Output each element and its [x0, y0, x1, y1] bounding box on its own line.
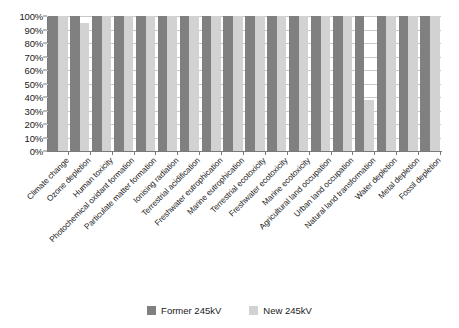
bar-group	[375, 16, 397, 151]
bar-group	[47, 16, 69, 151]
bar-group	[353, 16, 375, 151]
y-axis-tick-label: 30%	[25, 105, 43, 116]
bar	[289, 16, 299, 151]
bar-group	[244, 16, 266, 151]
bar-group	[332, 16, 354, 151]
bar-group	[310, 16, 332, 151]
bar	[299, 16, 309, 151]
bar	[211, 16, 221, 151]
bar	[48, 16, 58, 151]
bar-group	[113, 16, 135, 151]
bar-group	[156, 16, 178, 151]
y-axis-tick-label: 20%	[25, 119, 43, 130]
bar	[70, 16, 80, 151]
bar	[202, 16, 212, 151]
bar	[364, 100, 374, 151]
bar-group	[266, 16, 288, 151]
bar	[386, 16, 396, 151]
bar	[333, 16, 343, 151]
bar	[321, 16, 331, 151]
y-axis-tick-label: 50%	[25, 78, 43, 89]
bar	[233, 16, 243, 151]
y-axis-tick-label: 10%	[25, 132, 43, 143]
bar	[58, 16, 68, 151]
legend-swatch-icon	[147, 306, 156, 315]
bar	[420, 16, 430, 151]
bar-group	[419, 16, 441, 151]
bar-group	[135, 16, 157, 151]
bar	[399, 16, 409, 151]
chart-legend: Former 245kVNew 245kV	[0, 305, 459, 316]
bar	[189, 16, 199, 151]
bar	[277, 16, 287, 151]
bar	[343, 16, 353, 151]
bar	[136, 16, 146, 151]
bar	[408, 16, 418, 151]
legend-label: New 245kV	[263, 305, 312, 316]
bar-group	[288, 16, 310, 151]
legend-label: Former 245kV	[161, 305, 221, 316]
bar	[114, 16, 124, 151]
legend-item[interactable]: New 245kV	[249, 305, 312, 316]
bar	[223, 16, 233, 151]
bar-chart: 100%90%80%70%60%50%40%30%20%10%0% Climat…	[0, 0, 459, 328]
bar-group	[222, 16, 244, 151]
bar	[245, 16, 255, 151]
y-axis-tick-label: 90%	[25, 24, 43, 35]
bar-group	[200, 16, 222, 151]
y-axis-tick-label: 70%	[25, 51, 43, 62]
bar	[355, 16, 365, 151]
y-axis-tick-label: 0%	[30, 146, 43, 157]
bar	[102, 16, 112, 151]
legend-item[interactable]: Former 245kV	[147, 305, 221, 316]
bar	[180, 16, 190, 151]
bar	[124, 16, 134, 151]
plot-area	[47, 16, 441, 151]
y-axis-tick-label: 80%	[25, 38, 43, 49]
bar	[311, 16, 321, 151]
bar-group	[397, 16, 419, 151]
bar	[377, 16, 387, 151]
bar-group	[91, 16, 113, 151]
y-axis-labels: 100%90%80%70%60%50%40%30%20%10%0%	[0, 16, 43, 151]
bar	[158, 16, 168, 151]
x-axis-labels: Climate changeOzone depletionHuman toxic…	[47, 156, 441, 284]
bar	[267, 16, 277, 151]
bar-group	[178, 16, 200, 151]
bar-series-container	[47, 16, 441, 151]
bar	[146, 16, 156, 151]
y-axis-tick-label: 40%	[25, 92, 43, 103]
bar	[92, 16, 102, 151]
bar	[167, 16, 177, 151]
legend-swatch-icon	[249, 306, 258, 315]
bar	[80, 23, 90, 151]
y-axis-tick-label: 100%	[20, 11, 44, 22]
bar	[255, 16, 265, 151]
y-axis-tick-label: 60%	[25, 65, 43, 76]
bar	[430, 16, 440, 151]
bar-group	[69, 16, 91, 151]
